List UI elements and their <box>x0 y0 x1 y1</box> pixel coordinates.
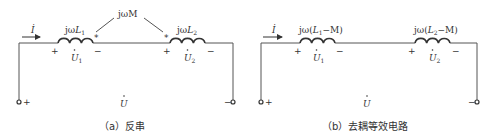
phasor-dot-b-u <box>366 95 368 97</box>
terminal-a-minus-sign: − <box>224 97 232 107</box>
minus-a-u1: − <box>94 46 102 56</box>
terminal-b-minus <box>475 100 479 104</box>
voltage-a-u2: U2 <box>184 53 196 64</box>
circuit-diagram: İ jωL1 jωL2 jωM * * + − U1 + − U2 + − U … <box>0 0 491 140</box>
phasor-dot-b-u2 <box>432 49 434 51</box>
phasor-dot-a-u <box>123 95 125 97</box>
terminal-a-minus <box>231 100 235 104</box>
phasor-dot-a-u2 <box>187 49 189 51</box>
dot-marker-a-l1: * <box>94 33 99 43</box>
caption-b: （b）去耦等效电路 <box>322 120 408 132</box>
caption-a: （a）反串 <box>99 121 145 132</box>
circuit-b: İ jω(L1−M) jω(L2−M) + − U1 + − U2 + − U … <box>259 24 479 132</box>
voltage-b-u2: U2 <box>429 53 441 64</box>
plus-a-u2: + <box>163 46 171 56</box>
total-voltage-b: U <box>363 99 371 109</box>
plus-a-u1: + <box>51 46 59 56</box>
inductor-b-l1-minus-m <box>300 38 335 43</box>
minus-a-u2: − <box>207 46 215 56</box>
circuit-a: İ jωL1 jωL2 jωM * * + − U1 + − U2 + − U … <box>17 9 235 132</box>
inductor-a-l2 <box>170 38 205 43</box>
terminal-a-plus-sign: + <box>23 97 31 107</box>
plus-b-u1: + <box>294 46 302 56</box>
phasor-dot-b-u1 <box>316 49 318 51</box>
minus-b-u1: − <box>336 46 344 56</box>
voltage-a-u1: U1 <box>71 53 82 64</box>
plus-b-u2: + <box>408 46 416 56</box>
coil2-label-b: jω(L2−M) <box>413 25 458 36</box>
current-label-b: İ <box>271 24 276 35</box>
inductor-b-l2-minus-m <box>415 38 450 43</box>
total-voltage-a: U <box>120 99 128 109</box>
terminal-b-plus <box>259 100 263 104</box>
mutual-leader-left <box>96 18 114 32</box>
coil2-label-a: jωL2 <box>176 25 197 36</box>
mutual-leader-right <box>144 18 163 32</box>
dot-marker-a-l2: * <box>164 33 169 43</box>
voltage-b-u1: U1 <box>313 53 324 64</box>
terminal-b-minus-sign: − <box>468 97 476 107</box>
phasor-dot-a-u1 <box>74 49 76 51</box>
coil1-label-a: jωL1 <box>64 25 85 36</box>
coil1-label-b: jω(L1−M) <box>298 25 343 36</box>
inductor-a-l1 <box>58 38 93 43</box>
mutual-inductance-label: jωM <box>117 9 137 19</box>
minus-b-u2: − <box>452 46 460 56</box>
current-label-a: İ <box>30 24 35 35</box>
terminal-b-plus-sign: + <box>265 97 273 107</box>
terminal-a-plus <box>17 100 21 104</box>
